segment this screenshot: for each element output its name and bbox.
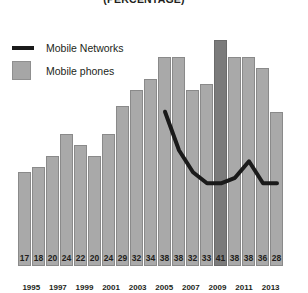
chart-container: (PERCENTAGE) Mobile Networks Mobile phon… (0, 0, 308, 293)
bar-value-label: 22 (75, 253, 86, 263)
bar-series: 17182024222024293234383832334138383628 (18, 18, 284, 266)
bar: 17 (18, 172, 31, 266)
bar: 38 (158, 57, 171, 266)
bar-slot: 38 (158, 18, 172, 266)
bar-slot: 17 (18, 18, 32, 266)
bar: 33 (200, 84, 213, 266)
bar: 29 (116, 106, 129, 266)
bar: 38 (242, 57, 255, 266)
bar: 41 (214, 40, 227, 266)
bar-value-label: 24 (103, 253, 114, 263)
bar-slot: 24 (102, 18, 116, 266)
plot-area: 17182024222024293234383832334138383628 (18, 18, 284, 266)
bar-value-label: 38 (243, 253, 254, 263)
bar-value-label: 18 (33, 253, 44, 263)
x-axis-tick-label: 2001 (98, 283, 125, 292)
bar-value-label: 32 (187, 253, 198, 263)
bar-value-label: 20 (89, 253, 100, 263)
bar-value-label: 36 (257, 253, 268, 263)
bar-slot: 41 (214, 18, 228, 266)
bar-slot: 38 (172, 18, 186, 266)
x-axis-ticks: 1995199719992001200320052007200920112013 (18, 283, 284, 292)
bar-slot: 32 (186, 18, 200, 266)
bar-value-label: 29 (117, 253, 128, 263)
bar-slot: 38 (228, 18, 242, 266)
x-axis-tick-label: 1999 (71, 283, 98, 292)
bar-slot: 18 (32, 18, 46, 266)
bar: 24 (102, 134, 115, 266)
bar-slot: 36 (256, 18, 270, 266)
bar: 22 (74, 145, 87, 266)
x-axis-tick-label: 1997 (45, 283, 72, 292)
bar: 32 (130, 90, 143, 266)
bar-value-label: 41 (215, 253, 226, 263)
bar: 28 (270, 112, 283, 266)
bar-value-label: 17 (19, 253, 30, 263)
bar-slot: 22 (74, 18, 88, 266)
x-axis-tick-label: 2011 (231, 283, 258, 292)
x-axis-tick-label: 2013 (257, 283, 284, 292)
bar-value-label: 32 (131, 253, 142, 263)
bar-slot: 32 (130, 18, 144, 266)
bar-slot: 33 (200, 18, 214, 266)
bar: 38 (228, 57, 241, 266)
bar-slot: 20 (46, 18, 60, 266)
bar-slot: 38 (242, 18, 256, 266)
bar-value-label: 28 (271, 253, 282, 263)
bar-value-label: 33 (201, 253, 212, 263)
bar: 36 (256, 68, 269, 266)
bar-slot: 29 (116, 18, 130, 266)
bar-value-label: 20 (47, 253, 58, 263)
bar-slot: 24 (60, 18, 74, 266)
bar-value-label: 34 (145, 253, 156, 263)
bar-value-label: 38 (229, 253, 240, 263)
bar-slot: 28 (270, 18, 284, 266)
x-axis-tick-label: 2005 (151, 283, 178, 292)
x-axis-tick-label: 1995 (18, 283, 45, 292)
bar: 34 (144, 79, 157, 266)
bar: 38 (172, 57, 185, 266)
x-axis-tick-label: 2003 (124, 283, 151, 292)
bar-value-label: 38 (159, 253, 170, 263)
bar: 20 (88, 156, 101, 266)
x-axis-tick-label: 2009 (204, 283, 231, 292)
bar: 18 (32, 167, 45, 266)
chart-title: (PERCENTAGE) (0, 0, 288, 5)
bar: 20 (46, 156, 59, 266)
bar: 32 (186, 90, 199, 266)
bar-slot: 34 (144, 18, 158, 266)
bar: 24 (60, 134, 73, 266)
bar-value-label: 24 (61, 253, 72, 263)
bar-slot: 20 (88, 18, 102, 266)
bar-value-label: 38 (173, 253, 184, 263)
x-axis-tick-label: 2007 (178, 283, 205, 292)
